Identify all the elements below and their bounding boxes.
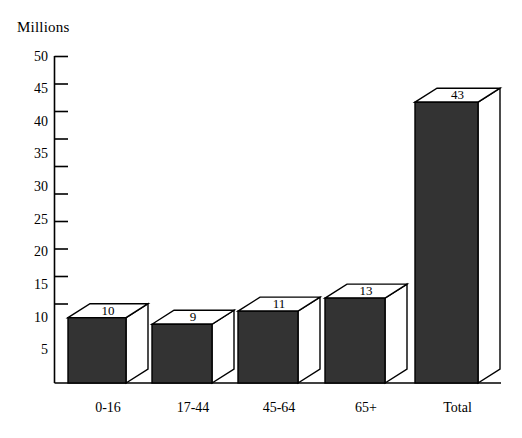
- bar-side-face: [478, 88, 500, 383]
- bar-value-label: 9: [190, 310, 197, 323]
- chart-plot-area: [0, 0, 522, 438]
- y-axis-ticks: [55, 57, 69, 305]
- bar-3d: [415, 88, 500, 383]
- y-axis-tick-label: 25: [14, 213, 48, 227]
- bar-front-face: [68, 318, 126, 383]
- bar-value-label: 13: [360, 284, 373, 297]
- y-axis-tick-label: 15: [14, 278, 48, 292]
- y-axis-tick-label: 5: [14, 343, 48, 357]
- y-axis-tick-label: 35: [14, 147, 48, 161]
- bar-chart: Millions 5101520253035404550 0-1617-4445…: [0, 0, 522, 438]
- bar-front-face: [238, 311, 298, 383]
- bar-front-face: [415, 102, 478, 383]
- y-axis-tick-label: 45: [14, 82, 48, 96]
- x-axis-tick-label: 17-44: [177, 401, 210, 415]
- bar-3d: [325, 284, 407, 383]
- bar-front-face: [325, 298, 385, 383]
- bar-value-label: 10: [102, 304, 115, 317]
- bars-layer: [68, 88, 500, 383]
- y-axis-tick-label: 40: [14, 115, 48, 129]
- y-axis-tick-label: 30: [14, 180, 48, 194]
- y-axis-tick-label: 50: [14, 50, 48, 64]
- x-axis-tick-label: 0-16: [95, 401, 121, 415]
- bar-front-face: [152, 324, 212, 383]
- bar-value-label: 11: [273, 297, 286, 310]
- x-axis-tick-label: 45-64: [263, 401, 296, 415]
- bar-side-face: [385, 284, 407, 383]
- bar-value-label: 43: [451, 88, 464, 101]
- x-axis-tick-label: 65+: [355, 401, 377, 415]
- bar-side-face: [298, 297, 320, 383]
- y-axis-tick-label: 20: [14, 245, 48, 259]
- x-axis-tick-label: Total: [443, 401, 472, 415]
- y-axis-tick-label: 10: [14, 311, 48, 325]
